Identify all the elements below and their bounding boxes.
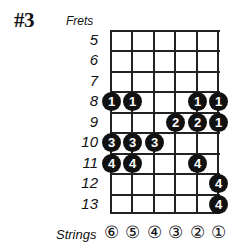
string-number: ⑥ [101,222,121,244]
finger-dot: 3 [145,133,164,152]
strings-label: Strings [56,227,96,242]
string-number: ⑤ [122,222,142,244]
finger-dot: 4 [209,195,228,214]
fret-line [110,30,220,32]
fret-number: 10 [68,132,98,152]
finger-dot: 3 [102,133,121,152]
string-line [110,30,112,214]
fret-line [110,112,220,114]
fret-line [110,173,220,175]
finger-dot: 1 [123,92,142,111]
fret-line [110,71,220,73]
string-number: ④ [144,222,164,244]
fret-line [110,194,220,196]
finger-dot: 4 [209,174,228,193]
finger-dot: 1 [102,92,121,111]
frets-label: Frets [66,14,93,28]
fretboard-grid: 1 1 1 1 2 2 1 3 3 3 4 4 4 4 4 [110,30,218,214]
finger-dot: 2 [188,113,207,132]
fret-number: 7 [68,71,98,91]
string-number: ② [187,222,207,244]
fret-number: 8 [68,91,98,111]
fret-number: 6 [68,50,98,70]
fret-number: 5 [68,30,98,50]
fret-number: 11 [68,153,98,173]
string-line [153,30,155,214]
diagram-title: #3 [14,8,34,33]
finger-dot: 2 [166,113,185,132]
fret-line [110,50,220,52]
finger-dot: 4 [188,154,207,173]
string-number: ③ [165,222,185,244]
finger-dot: 1 [209,92,228,111]
string-line [131,30,133,214]
fret-number: 9 [68,112,98,132]
finger-dot: 1 [188,92,207,111]
finger-dot: 1 [209,113,228,132]
string-number: ① [208,222,228,244]
fret-number: 12 [68,173,98,193]
finger-dot: 4 [123,154,142,173]
fret-line [110,212,220,214]
fret-number: 13 [68,194,98,214]
finger-dot: 4 [102,154,121,173]
finger-dot: 3 [123,133,142,152]
